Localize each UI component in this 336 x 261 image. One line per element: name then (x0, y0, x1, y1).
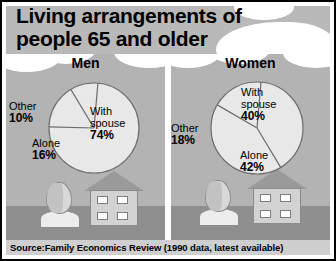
house-window-icon (97, 196, 108, 204)
ground-band (6, 206, 165, 242)
house-window-icon (117, 212, 128, 220)
house-window-icon (260, 194, 271, 202)
pie-label-women-alone: Alone 42% (240, 149, 268, 173)
pie-label-women-alone-value: 42% (240, 160, 264, 174)
ground-band (171, 206, 330, 242)
house-window-icon (280, 210, 291, 218)
header-band: Living arrangements of people 65 and old… (6, 6, 330, 54)
pie-label-men-alone: Alone 16% (32, 137, 60, 161)
source-text: Source:Family Economics Review (1990 dat… (6, 242, 283, 253)
panel-women-heading: Women (171, 55, 330, 71)
page-title-line2: people 65 and older (16, 27, 266, 50)
house-window-icon (97, 212, 108, 220)
infographic: Living arrangements of people 65 and old… (0, 0, 336, 261)
pie-label-women-spouse-value: 40% (241, 109, 265, 123)
pie-label-women-other: Other 18% (171, 122, 199, 146)
panel-men: Men (6, 54, 165, 242)
house-window-icon (117, 196, 128, 204)
panel-women: Women (171, 54, 330, 242)
pie-label-men-alone-value: 16% (32, 148, 56, 162)
pie-label-women-other-value: 18% (171, 133, 195, 147)
hair-icon (206, 181, 222, 211)
house-window-icon (260, 210, 271, 218)
pie-label-women-spouse: With spouse 40% (241, 86, 276, 122)
panel-men-heading: Men (6, 55, 165, 71)
pie-label-men-other-value: 10% (9, 111, 33, 125)
pie-label-men-spouse-name: With (90, 105, 112, 117)
house-window-icon (280, 194, 291, 202)
source-bar: Source:Family Economics Review (1990 dat… (6, 240, 330, 255)
page-title: Living arrangements of people 65 and old… (16, 6, 266, 50)
page-title-line1: Living arrangements of (16, 6, 242, 27)
pie-label-men-other: Other 10% (9, 100, 37, 124)
hair-icon (47, 183, 63, 213)
chart-area: Men (6, 54, 330, 259)
pie-label-men-spouse-value: 74% (90, 128, 114, 142)
pie-label-men-spouse: With spouse 74% (90, 105, 125, 141)
pie-label-women-spouse-name: With (241, 86, 263, 98)
